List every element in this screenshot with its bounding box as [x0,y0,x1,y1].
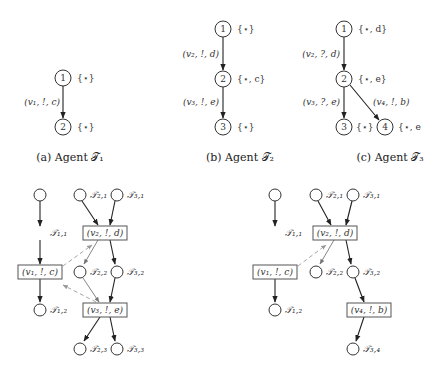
composition-right: 𝒯₂,₁ 𝒯₃,₁ 𝒯₁,₁ 𝒯₂,₂ 𝒯₃,₂ 𝒯₁,₂ 𝒯₃,₄ (v₂, … [253,189,391,355]
edge-label: (v₂, ?, d) [302,49,340,59]
place-label: 𝒯₃,₁ [127,190,144,200]
agent-t3-automaton: 1 {⋆, d} 2 {⋆, e} 3 {⋆} 4 {⋆, e (v₂, ?, … [302,21,423,164]
place-t11 [34,189,46,201]
edge-label: (v₄, !, b) [373,97,410,107]
place-label: 𝒯₂,₂ [326,267,343,277]
state-label: {⋆, d} [358,24,387,34]
place-label: 𝒯₂,₂ [90,267,107,277]
svg-text:2: 2 [220,74,226,84]
place-t12 [269,304,281,316]
place-label: 𝒯₁,₂ [50,305,67,315]
place-label: 𝒯₂,₁ [90,190,107,200]
place-label: 𝒯₃,₂ [127,267,144,277]
state-label: {⋆} [77,122,94,132]
svg-text:1: 1 [60,73,66,83]
state-label: {⋆, e} [358,74,387,84]
edge-label: (v₃, !, e) [183,97,220,107]
place-label: 𝒯₁,₁ [285,228,302,238]
caption-a: (a) Agent 𝒯₁ [36,151,104,164]
place-label: 𝒯₃,₄ [363,344,380,354]
svg-text:1: 1 [341,24,347,34]
svg-text:2: 2 [341,74,347,84]
diagram-canvas: 1 {⋆} 2 {⋆} (v₁, !, c) (a) Agent 𝒯₁ 1 {⋆… [0,0,427,371]
place-t31 [347,189,359,201]
place-t32 [347,266,359,278]
edge-label: (v₂, !, d) [182,49,219,59]
svg-text:(v₁, !, c): (v₁, !, c) [257,267,293,277]
sync-edge [298,245,326,266]
agent-t1-automaton: 1 {⋆} 2 {⋆} (v₁, !, c) (a) Agent 𝒯₁ [24,70,104,164]
place-label: 𝒯₃,₃ [127,344,144,354]
place-t21 [310,189,322,201]
place-t21 [74,189,86,201]
caption-c: (c) Agent 𝒯₃ [356,151,423,164]
place-label: 𝒯₃,₁ [363,190,380,200]
place-label: 𝒯₂,₁ [326,190,343,200]
svg-text:(v₄, !, b): (v₄, !, b) [351,305,388,315]
place-t34 [347,343,359,355]
composition-left: 𝒯₂,₁ 𝒯₃,₁ 𝒯₁,₁ 𝒯₂,₂ 𝒯₃,₂ 𝒯₁,₂ 𝒯₂,₃ 𝒯₃,₃ … [18,189,144,355]
svg-text:4: 4 [382,122,388,132]
agent-t2-automaton: 1 {⋆} 2 {⋆, c} 3 {⋆} (v₂, !, d) (v₃, !, … [182,21,274,164]
place-label: 𝒯₁,₁ [50,228,67,238]
state-label: {⋆, c} [237,74,265,84]
place-t12 [34,304,46,316]
place-t23 [74,343,86,355]
svg-text:(v₂, !, d): (v₂, !, d) [87,228,124,238]
edge-label: (v₁, !, c) [24,97,60,107]
state-label: {⋆} [237,24,254,34]
svg-text:(v₃, !, e): (v₃, !, e) [87,305,124,315]
sync-edge [63,245,92,266]
place-t33 [111,343,123,355]
state-label: {⋆} [356,122,373,132]
place-label: 𝒯₂,₃ [90,344,107,354]
place-t32 [111,266,123,278]
svg-text:(v₂, !, d): (v₂, !, d) [317,228,354,238]
state-label: {⋆} [237,122,254,132]
place-label: 𝒯₁,₂ [285,305,302,315]
state-label: {⋆} [77,73,94,83]
place-t31 [111,189,123,201]
caption-b: (b) Agent 𝒯₂ [206,151,274,164]
place-t22 [310,266,322,278]
edge-label: (v₃, ?, e) [303,97,341,107]
place-label: 𝒯₃,₂ [363,267,380,277]
state-label: {⋆, e [398,122,421,132]
svg-text:2: 2 [60,122,66,132]
svg-text:1: 1 [220,24,226,34]
place-t11 [269,189,281,201]
sync-edge [63,285,96,302]
svg-text:3: 3 [341,122,347,132]
place-t22 [74,266,86,278]
svg-text:3: 3 [220,122,226,132]
svg-text:(v₁, !, c): (v₁, !, c) [22,267,58,277]
